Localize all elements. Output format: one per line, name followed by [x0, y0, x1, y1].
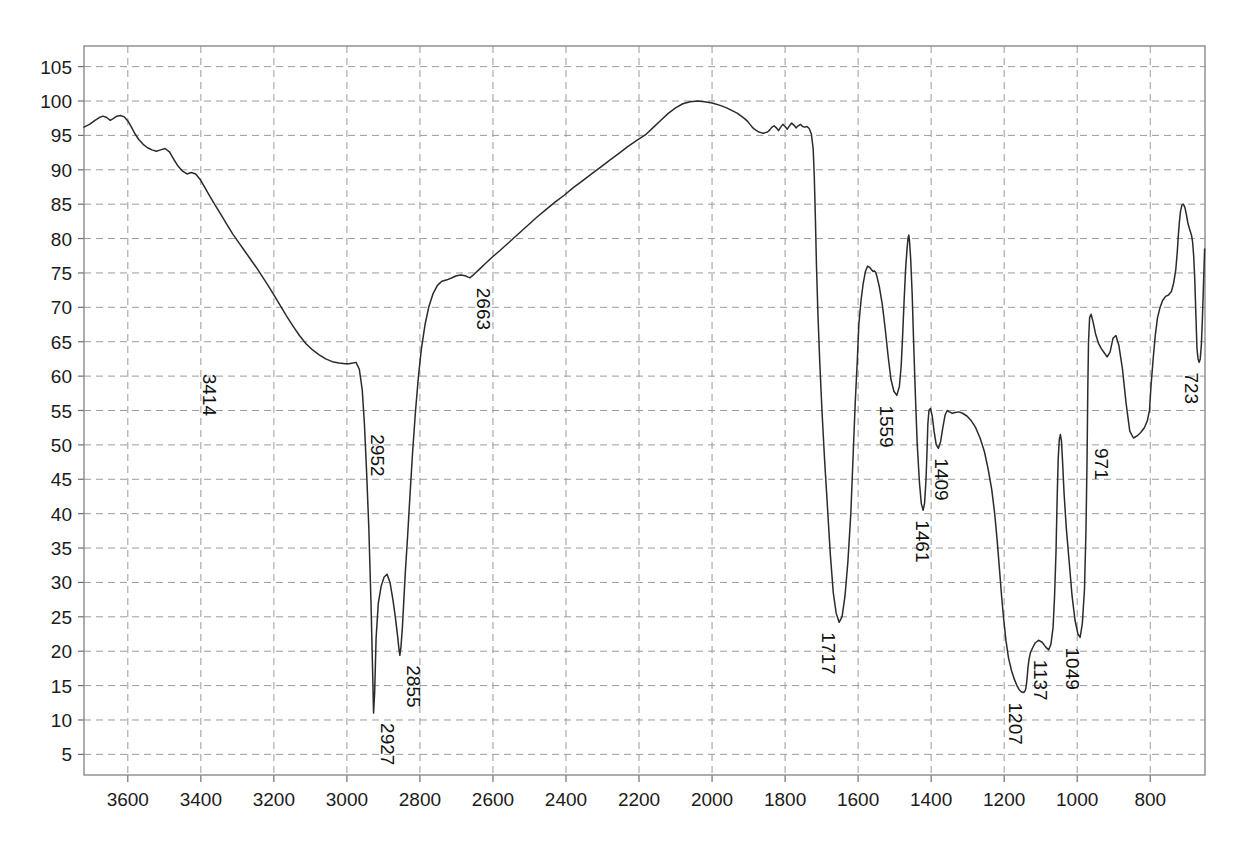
- x-tick-label: 2400: [545, 789, 587, 810]
- y-axis-tick-labels: 5101520253035404550556065707580859095100…: [40, 57, 72, 766]
- x-tick-label: 2800: [399, 789, 441, 810]
- y-tick-label: 95: [51, 125, 72, 146]
- y-tick-label: 70: [51, 297, 72, 318]
- peak-label-2927: 2927: [377, 723, 398, 765]
- tick-layer: [78, 67, 1150, 782]
- x-tick-label: 1600: [837, 789, 879, 810]
- peak-label-723: 723: [1181, 372, 1202, 404]
- x-tick-label: 2200: [618, 789, 660, 810]
- peak-label-1559: 1559: [876, 405, 897, 447]
- x-tick-label: 3600: [107, 789, 149, 810]
- y-tick-label: 100: [40, 91, 72, 112]
- ir-spectrum-chart: 5101520253035404550556065707580859095100…: [0, 0, 1256, 849]
- y-tick-label: 75: [51, 263, 72, 284]
- y-tick-label: 65: [51, 332, 72, 353]
- x-axis-tick-labels: 3600340032003000280026002400220020001800…: [107, 789, 1166, 810]
- y-tick-label: 90: [51, 160, 72, 181]
- x-tick-label: 1000: [1056, 789, 1098, 810]
- x-tick-label: 2600: [472, 789, 514, 810]
- y-tick-label: 10: [51, 710, 72, 731]
- y-tick-label: 60: [51, 366, 72, 387]
- x-tick-label: 1200: [983, 789, 1025, 810]
- peak-label-2952: 2952: [367, 434, 388, 476]
- x-tick-label: 1400: [910, 789, 952, 810]
- y-tick-label: 35: [51, 538, 72, 559]
- peak-label-2855: 2855: [403, 665, 424, 707]
- y-tick-label: 30: [51, 572, 72, 593]
- y-tick-label: 20: [51, 641, 72, 662]
- peak-label-1049: 1049: [1062, 648, 1083, 690]
- peak-label-971: 971: [1091, 448, 1112, 480]
- x-tick-label: 3200: [253, 789, 295, 810]
- peak-label-2663: 2663: [473, 288, 494, 330]
- peak-label-1137: 1137: [1030, 660, 1051, 701]
- y-tick-label: 85: [51, 194, 72, 215]
- peak-label-1207: 1207: [1005, 703, 1026, 745]
- peak-label-1717: 1717: [818, 632, 839, 674]
- y-tick-label: 80: [51, 229, 72, 250]
- x-tick-label: 3000: [326, 789, 368, 810]
- y-tick-label: 45: [51, 469, 72, 490]
- y-tick-label: 5: [61, 744, 72, 765]
- x-tick-label: 800: [1134, 789, 1166, 810]
- x-tick-label: 1800: [764, 789, 806, 810]
- y-tick-label: 55: [51, 401, 72, 422]
- peak-label-3414: 3414: [199, 374, 220, 417]
- y-tick-label: 40: [51, 504, 72, 525]
- spectrum-trace: [84, 101, 1205, 713]
- y-tick-label: 25: [51, 607, 72, 628]
- ir-spectrum-page: 5101520253035404550556065707580859095100…: [0, 0, 1256, 849]
- x-tick-label: 3400: [180, 789, 222, 810]
- y-tick-label: 50: [51, 435, 72, 456]
- x-tick-label: 2000: [691, 789, 733, 810]
- spectrum-trace-layer: [84, 101, 1205, 713]
- peak-label-1461: 1461: [912, 520, 933, 562]
- peak-label-1409: 1409: [931, 458, 952, 500]
- peak-annotation-layer: 3414295229272855266317171559146114091207…: [199, 288, 1203, 766]
- y-tick-label: 105: [40, 57, 72, 78]
- y-tick-label: 15: [51, 676, 72, 697]
